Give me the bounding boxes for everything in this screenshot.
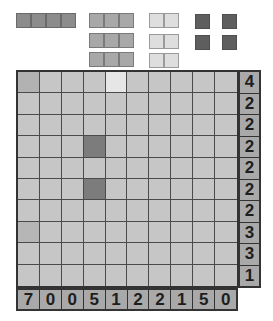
grid-cell[interactable] [127, 265, 149, 286]
grid-cell[interactable] [193, 179, 215, 200]
grid-cell[interactable] [84, 179, 106, 200]
grid-cell[interactable] [171, 115, 193, 136]
grid-cell[interactable] [149, 243, 171, 264]
grid-cell[interactable] [193, 265, 215, 286]
grid-cell[interactable] [106, 93, 128, 114]
grid-cell[interactable] [193, 200, 215, 221]
grid-cell[interactable] [62, 72, 84, 93]
grid-cell[interactable] [193, 222, 215, 243]
grid-cell[interactable] [62, 179, 84, 200]
grid-cell[interactable] [193, 115, 215, 136]
grid-cell[interactable] [193, 93, 215, 114]
grid-cell[interactable] [18, 200, 40, 221]
grid-cell[interactable] [84, 115, 106, 136]
grid-cell[interactable] [149, 93, 171, 114]
grid-cell[interactable] [40, 200, 62, 221]
grid-cell[interactable] [40, 136, 62, 157]
grid-cell[interactable] [127, 179, 149, 200]
grid-cell[interactable] [62, 243, 84, 264]
grid-cell[interactable] [215, 265, 237, 286]
grid-cell[interactable] [193, 243, 215, 264]
grid-cell[interactable] [84, 265, 106, 286]
grid-cell[interactable] [106, 72, 128, 93]
grid-cell[interactable] [40, 243, 62, 264]
grid-cell[interactable] [40, 158, 62, 179]
grid-cell[interactable] [127, 72, 149, 93]
grid-cell[interactable] [149, 136, 171, 157]
grid-cell[interactable] [40, 115, 62, 136]
grid-cell[interactable] [84, 222, 106, 243]
grid-cell[interactable] [18, 158, 40, 179]
grid-cell[interactable] [18, 136, 40, 157]
grid-cell[interactable] [18, 115, 40, 136]
grid-cell[interactable] [171, 72, 193, 93]
grid-cell[interactable] [215, 136, 237, 157]
grid-cell[interactable] [18, 179, 40, 200]
grid-cell[interactable] [215, 243, 237, 264]
grid-cell[interactable] [149, 222, 171, 243]
grid-cell[interactable] [106, 158, 128, 179]
grid-cell[interactable] [84, 200, 106, 221]
grid-cell[interactable] [106, 136, 128, 157]
grid-cell[interactable] [106, 243, 128, 264]
grid-cell[interactable] [149, 179, 171, 200]
grid-cell[interactable] [171, 179, 193, 200]
grid-cell[interactable] [40, 93, 62, 114]
grid-cell[interactable] [171, 158, 193, 179]
grid-cell[interactable] [127, 222, 149, 243]
grid-cell[interactable] [62, 115, 84, 136]
grid-cell[interactable] [62, 222, 84, 243]
grid-cell[interactable] [18, 72, 40, 93]
grid-cell[interactable] [18, 222, 40, 243]
grid-cell[interactable] [171, 243, 193, 264]
grid-cell[interactable] [62, 158, 84, 179]
grid-cell[interactable] [215, 222, 237, 243]
grid-cell[interactable] [62, 200, 84, 221]
grid-cell[interactable] [215, 115, 237, 136]
grid-cell[interactable] [193, 72, 215, 93]
grid-cell[interactable] [18, 93, 40, 114]
grid-cell[interactable] [149, 115, 171, 136]
grid-cell[interactable] [171, 200, 193, 221]
grid-cell[interactable] [171, 93, 193, 114]
grid-cell[interactable] [62, 265, 84, 286]
grid-cell[interactable] [106, 222, 128, 243]
grid-cell[interactable] [106, 115, 128, 136]
grid-cell[interactable] [127, 200, 149, 221]
grid-cell[interactable] [215, 158, 237, 179]
grid-cell[interactable] [84, 93, 106, 114]
grid-cell[interactable] [171, 265, 193, 286]
grid-cell[interactable] [106, 200, 128, 221]
grid-cell[interactable] [127, 243, 149, 264]
grid-cell[interactable] [106, 265, 128, 286]
grid-cell[interactable] [84, 243, 106, 264]
grid-cell[interactable] [127, 93, 149, 114]
grid-cell[interactable] [193, 136, 215, 157]
grid-cell[interactable] [215, 179, 237, 200]
grid-cell[interactable] [106, 179, 128, 200]
grid-cell[interactable] [40, 265, 62, 286]
grid-cell[interactable] [149, 200, 171, 221]
grid-cell[interactable] [18, 265, 40, 286]
grid-cell[interactable] [127, 158, 149, 179]
grid-cell[interactable] [40, 72, 62, 93]
grid-cell[interactable] [84, 72, 106, 93]
grid-cell[interactable] [215, 72, 237, 93]
grid-cell[interactable] [127, 136, 149, 157]
grid-cell[interactable] [149, 158, 171, 179]
grid-cell[interactable] [215, 93, 237, 114]
grid-cell[interactable] [40, 222, 62, 243]
grid-cell[interactable] [40, 179, 62, 200]
grid-cell[interactable] [149, 72, 171, 93]
grid-cell[interactable] [62, 93, 84, 114]
grid-cell[interactable] [84, 158, 106, 179]
grid-cell[interactable] [193, 158, 215, 179]
grid-cell[interactable] [171, 222, 193, 243]
grid-cell[interactable] [171, 136, 193, 157]
grid-cell[interactable] [215, 200, 237, 221]
grid-cell[interactable] [149, 265, 171, 286]
grid-cell[interactable] [62, 136, 84, 157]
grid-cell[interactable] [84, 136, 106, 157]
grid-cell[interactable] [18, 243, 40, 264]
grid-cell[interactable] [127, 115, 149, 136]
